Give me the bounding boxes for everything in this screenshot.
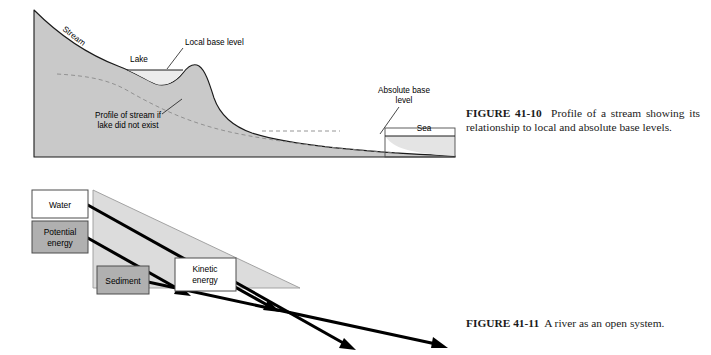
box-sediment: Sediment	[97, 266, 149, 294]
box-water: Water	[32, 190, 88, 218]
figure-41-10-diagram: Stream Lake Local base level Absolute ba…	[0, 0, 470, 175]
box-potential-energy: Potential energy	[32, 221, 88, 253]
label-absolute-base-level-line1: Absolute base	[378, 86, 430, 95]
box-potential-energy-label-line2: energy	[47, 238, 73, 248]
box-sediment-label: Sediment	[105, 276, 141, 286]
label-absolute-base-level-line2: level	[396, 96, 413, 105]
leader-local-base-level	[167, 48, 183, 69]
caption-41-11-label: FIGURE 41-11	[466, 317, 539, 329]
arrow-sediment-head	[431, 337, 448, 348]
box-kinetic-energy-label-line1: Kinetic	[192, 264, 217, 274]
caption-41-10-text-spacer	[542, 107, 551, 119]
box-kinetic-energy-label-line2: energy	[192, 275, 218, 285]
arrow-kinetic-energy-head	[339, 338, 356, 350]
caption-41-10-label: FIGURE 41-10	[466, 107, 542, 119]
caption-41-11-text: A river as an open system.	[544, 317, 664, 329]
figure-page: Stream Lake Local base level Absolute ba…	[0, 0, 711, 355]
leader-absolute-base-level	[380, 107, 399, 134]
box-water-label: Water	[49, 200, 71, 210]
caption-figure-41-10: FIGURE 41-10 Profile of a stream showing…	[466, 106, 700, 134]
label-hypothetical-profile-line2: lake did not exist	[98, 121, 160, 130]
box-potential-energy-label-line1: Potential	[44, 227, 77, 237]
label-local-base-level: Local base level	[185, 38, 244, 47]
figure-41-11-diagram: Water Potential energy Sediment Kinetic …	[0, 178, 470, 355]
box-kinetic-energy: Kinetic energy	[175, 258, 236, 291]
box-potential-energy-rect	[32, 221, 88, 253]
caption-figure-41-11: FIGURE 41-11 A river as an open system.	[466, 316, 706, 330]
label-hypothetical-profile-line1: Profile of stream if	[95, 111, 162, 120]
label-sea: Sea	[417, 124, 432, 133]
label-lake: Lake	[130, 55, 148, 64]
